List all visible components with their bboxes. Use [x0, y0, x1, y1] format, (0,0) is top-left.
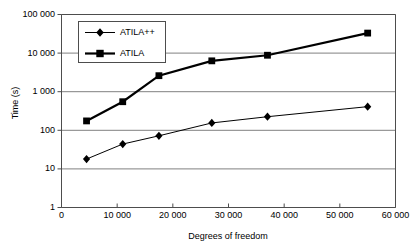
data-point-marker: [364, 30, 371, 37]
legend: ATILA++ ATILA: [78, 21, 166, 63]
data-point-marker: [364, 103, 371, 111]
legend-entry-1: ATILA: [79, 43, 167, 64]
legend-marker-diamond-icon: [84, 22, 116, 43]
data-point-marker: [119, 140, 126, 148]
series-line-0: [87, 107, 368, 159]
data-point-marker: [119, 98, 126, 105]
data-point-marker: [264, 52, 271, 59]
data-point-marker: [156, 72, 163, 79]
data-point-marker: [208, 57, 215, 64]
legend-label-0: ATILA++: [120, 27, 155, 38]
chart-container: Time (s) 1101001 00010 000100 000 010 00…: [0, 0, 418, 251]
data-point-marker: [83, 155, 90, 163]
legend-entry-0: ATILA++: [79, 22, 167, 43]
plot-area: [0, 0, 418, 251]
data-point-marker: [155, 132, 162, 140]
data-point-marker: [83, 118, 90, 125]
data-point-marker: [264, 113, 271, 121]
data-point-marker: [208, 119, 215, 127]
legend-label-1: ATILA: [120, 48, 144, 59]
legend-marker-square-icon: [84, 43, 116, 64]
